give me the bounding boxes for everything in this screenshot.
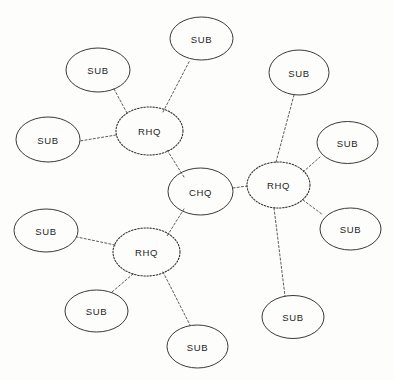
node-shape-sub_tr — [269, 50, 329, 95]
edge-rhq_bl-to-sub_b2 — [163, 272, 190, 325]
edge-chq-to-rhq_r — [233, 186, 247, 188]
node-shape-chq — [168, 168, 233, 215]
node-sub_b1[interactable]: SUB — [65, 290, 128, 332]
node-sub_r1[interactable]: SUB — [317, 122, 378, 164]
node-rhq_bl[interactable]: RHQ — [113, 228, 180, 276]
edge-rhq_bl-to-sub_b1 — [112, 274, 133, 292]
edge-rhq_bl-to-sub_bl_l — [77, 237, 115, 245]
node-shape-sub_r1 — [317, 122, 378, 164]
node-sub_bl_l[interactable]: SUB — [14, 209, 78, 252]
node-shape-rhq_bl — [113, 228, 180, 276]
edge-rhq_r-to-sub_r1 — [303, 157, 320, 172]
node-sub_tr[interactable]: SUB — [269, 50, 329, 95]
node-shape-sub_br — [262, 296, 324, 339]
node-layer: CHQRHQRHQRHQSUBSUBSUBSUBSUBSUBSUBSUBSUBS… — [14, 17, 381, 368]
edge-rhq_r-to-sub_r2 — [303, 200, 323, 215]
edge-rhq_tl-to-sub_top — [163, 60, 190, 112]
node-shape-sub_top — [170, 17, 233, 60]
node-chq[interactable]: CHQ — [168, 168, 233, 215]
network-diagram-canvas: CHQRHQRHQRHQSUBSUBSUBSUBSUBSUBSUBSUBSUBS… — [0, 0, 394, 380]
node-shape-sub_tl — [66, 48, 130, 92]
node-rhq_r[interactable]: RHQ — [247, 162, 310, 208]
node-shape-rhq_tl — [116, 107, 183, 155]
node-sub_r2[interactable]: SUB — [320, 208, 381, 250]
node-shape-sub_bl_l — [14, 209, 78, 252]
node-sub_l[interactable]: SUB — [16, 117, 80, 162]
node-sub_br[interactable]: SUB — [262, 296, 324, 339]
edge-rhq_tl-to-sub_tl — [114, 89, 127, 113]
edge-rhq_r-to-sub_tr — [276, 95, 294, 162]
node-shape-sub_b1 — [65, 290, 128, 332]
node-shape-sub_b2 — [167, 325, 228, 368]
node-sub_tl[interactable]: SUB — [66, 48, 130, 92]
node-rhq_tl[interactable]: RHQ — [116, 107, 183, 155]
edge-rhq_r-to-sub_br — [274, 208, 285, 296]
node-sub_b2[interactable]: SUB — [167, 325, 228, 368]
node-shape-sub_r2 — [320, 208, 381, 250]
node-shape-sub_l — [16, 117, 80, 162]
node-sub_top[interactable]: SUB — [170, 17, 233, 60]
edge-chq-to-rhq_bl — [167, 209, 184, 236]
node-shape-rhq_r — [247, 162, 310, 208]
network-diagram: CHQRHQRHQRHQSUBSUBSUBSUBSUBSUBSUBSUBSUBS… — [0, 0, 394, 380]
edge-rhq_tl-to-sub_l — [80, 135, 116, 141]
